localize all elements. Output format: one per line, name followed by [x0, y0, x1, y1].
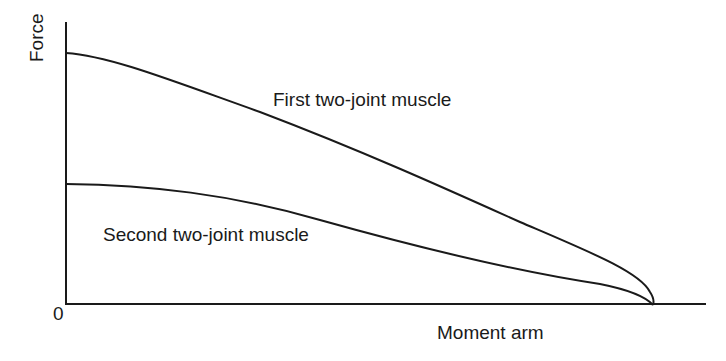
annotation-second-muscle: Second two-joint muscle [103, 224, 309, 246]
annotation-first-muscle: First two-joint muscle [273, 89, 451, 111]
origin-label: 0 [53, 303, 64, 325]
chart-canvas [0, 0, 726, 361]
y-axis-label: Force [26, 13, 48, 62]
x-axis-label: Moment arm [437, 322, 544, 344]
